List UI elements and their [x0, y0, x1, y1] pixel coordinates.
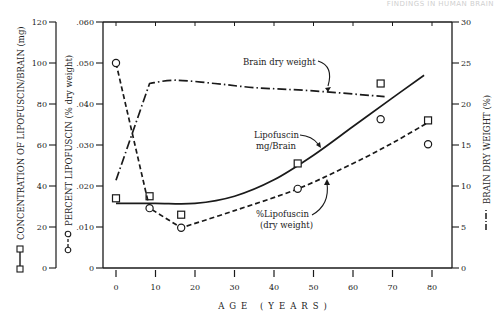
arrowhead-icon — [325, 87, 331, 92]
left-outer-tick-label: 100 — [32, 59, 47, 68]
right-tick-label: 20 — [461, 100, 471, 109]
left-outer-tick-label: 60 — [37, 141, 47, 150]
left-outer-tick-label: 40 — [37, 182, 47, 191]
square-data-point — [294, 160, 301, 167]
x-tick-label: 20 — [190, 283, 200, 292]
circle-data-point — [294, 185, 301, 192]
x-tick-label: 50 — [308, 283, 318, 292]
annotation-percent-lipofuscin: (dry weight) — [260, 220, 313, 230]
x-tick-label: 40 — [269, 283, 279, 292]
x-tick-label: 70 — [387, 283, 397, 292]
circle-data-point — [146, 205, 153, 212]
square-data-point — [425, 117, 432, 124]
circle-data-point — [112, 59, 119, 66]
series-line-dash-dot — [116, 80, 385, 180]
left-outer-tick-label: 120 — [32, 18, 47, 27]
square-marker-icon — [17, 246, 23, 252]
right-axis-title: BRAIN DRY WEIGHT (%) — [482, 95, 492, 230]
x-tick-label: 0 — [113, 283, 118, 292]
left-outer-tick-label: 80 — [37, 100, 47, 109]
right-tick-label: 0 — [461, 264, 466, 273]
left-inner-axis-title: PERCENT LIPOFUSCIN (% dry weight) — [64, 55, 74, 253]
right-tick-label: 15 — [461, 141, 471, 150]
x-tick-label: 80 — [427, 283, 437, 292]
circle-data-point — [377, 116, 384, 123]
left-inner-tick-label: .030 — [76, 141, 94, 150]
left-inner-axis-label: PERCENT LIPOFUSCIN (% dry weight) — [64, 55, 74, 226]
arrowhead-icon — [324, 179, 330, 185]
arrow-lipofuscin-mg-icon — [300, 135, 318, 144]
square-data-point — [377, 80, 384, 87]
left-inner-tick-label: 0 — [89, 264, 94, 273]
square-data-point — [113, 195, 120, 202]
x-axis-label: AGE (YEARS) — [217, 301, 332, 311]
arrow-percent-lipofuscin-icon — [312, 183, 327, 215]
left-inner-tick-label: .010 — [76, 223, 94, 232]
left-inner-tick-label: .020 — [76, 182, 94, 191]
chart: 01020304050607080AGE (YEARS)020406080100… — [0, 0, 500, 321]
square-data-point — [178, 211, 185, 218]
right-tick-label: 10 — [461, 182, 471, 191]
right-tick-label: 25 — [461, 59, 471, 68]
arrow-brain-dry-weight-icon — [318, 61, 330, 86]
square-marker-icon — [17, 266, 23, 272]
left-inner-tick-label: .060 — [76, 18, 94, 27]
left-outer-axis-label: CONCENTRATION OF LIPOFUSCIN/BRAIN (mg) — [16, 26, 26, 240]
x-tick-label: 30 — [229, 283, 239, 292]
circle-data-point — [424, 141, 431, 148]
annotation-brain-dry-weight: Brain dry weight — [243, 57, 316, 67]
annotation-lipofuscin-mg: mg/Brain — [256, 141, 296, 151]
circle-data-point — [178, 224, 185, 231]
left-outer-axis-title: CONCENTRATION OF LIPOFUSCIN/BRAIN (mg) — [16, 26, 26, 272]
annotation-percent-lipofuscin: %Lipofuscin — [256, 209, 309, 219]
circle-marker-icon — [65, 247, 71, 253]
left-inner-tick-label: .040 — [76, 100, 94, 109]
left-outer-tick-label: 0 — [42, 264, 47, 273]
circle-marker-icon — [65, 231, 71, 237]
right-tick-label: 5 — [461, 223, 466, 232]
x-tick-label: 10 — [150, 283, 160, 292]
annotation-lipofuscin-mg: Lipofuscin — [254, 130, 299, 140]
x-tick-label: 60 — [348, 283, 358, 292]
right-axis-label: BRAIN DRY WEIGHT (%) — [482, 95, 492, 204]
right-tick-label: 30 — [461, 18, 471, 27]
left-inner-tick-label: .050 — [76, 59, 94, 68]
left-outer-tick-label: 20 — [37, 223, 47, 232]
